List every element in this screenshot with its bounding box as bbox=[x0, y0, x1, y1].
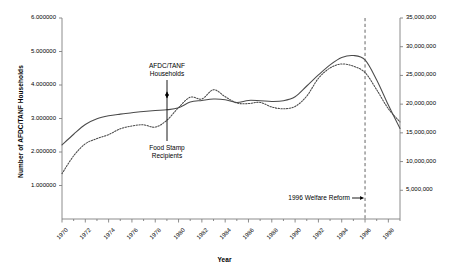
axes-group bbox=[59, 18, 403, 223]
series-line-2 bbox=[62, 64, 400, 174]
annotation-fs-line-2: Recipients bbox=[122, 152, 212, 160]
annotation-afdc-line-2: Households bbox=[122, 70, 212, 78]
annotation-afdc-line-1: AFDC/TANF bbox=[122, 62, 212, 70]
annotation-arrows bbox=[165, 18, 365, 219]
chart-container: Number of AFDC/TANF Households Year 1.00… bbox=[0, 0, 449, 272]
arrow-welfare-reform bbox=[352, 196, 364, 200]
arrow-food-stamp-recipients bbox=[165, 92, 169, 141]
annotation-welfare-reform: 1996 Welfare Reform bbox=[235, 194, 350, 202]
annotation-fs-line-1: Food Stamp bbox=[122, 144, 212, 152]
annotation-afdc-tanf-households: AFDC/TANFHouseholds bbox=[122, 62, 212, 78]
annotation-food-stamp-recipients: Food StampRecipients bbox=[122, 144, 212, 160]
plot-area bbox=[0, 0, 449, 272]
series-group bbox=[62, 55, 400, 173]
